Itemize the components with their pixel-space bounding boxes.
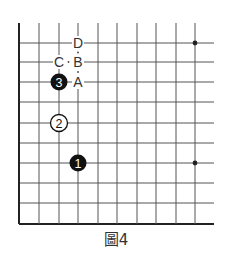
stone-number: 2: [56, 117, 63, 131]
connector-dot: [68, 61, 70, 63]
point-label-d: D: [73, 35, 83, 51]
star-point-icon: [193, 161, 198, 166]
board-grid: [19, 23, 214, 224]
point-label-c: C: [54, 54, 64, 70]
figure-caption: 圖4: [0, 228, 232, 249]
stone-number: 3: [56, 76, 63, 90]
point-label-a: A: [73, 74, 83, 90]
point-label-b: B: [73, 54, 82, 70]
stone-number: 1: [75, 157, 82, 171]
star-point-icon: [193, 41, 198, 46]
go-board: DBCA 123: [0, 0, 232, 253]
connector-dot: [77, 71, 79, 73]
